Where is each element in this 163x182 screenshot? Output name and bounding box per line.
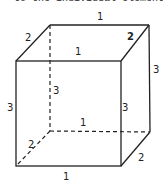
edge-bottom-right-depth [121,132,150,166]
label-bottom-right-depth: 2 [138,152,144,163]
label-front-left-height: 3 [7,102,13,113]
label-top-back: 1 [97,11,103,22]
label-hidden-bottom-left-depth: 2 [28,139,34,150]
hidden-edge-back-bottom [50,131,150,132]
label-bottom-front: 1 [63,171,69,182]
cuboid-diagram: 1 2 2 1 3 3 3 3 1 2 2 1 [0,0,163,182]
edge-right-back-height [149,25,150,132]
label-front-right-height: 3 [122,102,128,113]
label-top-right-depth: 2 [127,31,134,42]
label-hidden-back-height: 3 [53,85,59,96]
label-top-left-depth: 2 [25,32,31,43]
edge-top-right-depth [121,25,149,61]
edge-top-left-depth [16,25,50,61]
label-hidden-back-bottom: 1 [80,117,86,128]
label-top-front: 1 [75,46,81,57]
label-right-back-height: 3 [153,64,159,75]
front-face [16,61,121,166]
